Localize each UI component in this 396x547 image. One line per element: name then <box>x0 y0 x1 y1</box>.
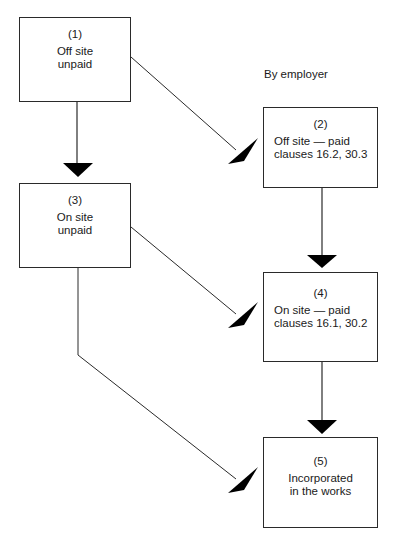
node-incorporated-in-works: (5) Incorporated in the works <box>263 437 378 528</box>
arrowhead-icon <box>307 420 337 434</box>
arrowhead-icon <box>307 255 337 268</box>
edge-3-to-5 <box>78 268 258 493</box>
arrowhead-icon <box>228 467 258 493</box>
arrowhead-icon <box>228 302 258 328</box>
node-off-site-paid: (2) Off site — paid clauses 16.2, 30.3 <box>263 107 378 188</box>
node-text-line: Incorporated <box>264 472 377 485</box>
edge-4-to-5 <box>307 362 337 434</box>
node-text-line: Off site <box>20 45 130 58</box>
node-on-site-unpaid: (3) On site unpaid <box>19 183 131 268</box>
node-number: (1) <box>20 28 130 41</box>
node-number: (4) <box>274 287 377 300</box>
node-off-site-unpaid: (1) Off site unpaid <box>19 17 131 102</box>
node-text-line: unpaid <box>20 224 130 237</box>
node-text-line: clauses 16.1, 30.2 <box>274 317 377 330</box>
edge-1-to-2 <box>131 57 258 164</box>
node-text-line: On site — paid <box>274 304 377 317</box>
flow-diagram: By employer (1) Off site unpaid (2) Off … <box>0 0 396 547</box>
edge-1-to-3 <box>63 102 93 177</box>
node-text-line: unpaid <box>20 58 130 71</box>
node-text-line: in the works <box>264 485 377 498</box>
node-text-line: Off site — paid <box>274 135 377 148</box>
node-number: (2) <box>274 118 377 131</box>
edge-3-to-4 <box>131 227 258 328</box>
node-number: (3) <box>20 194 130 207</box>
node-text-line: clauses 16.2, 30.3 <box>274 148 377 161</box>
arrowhead-icon <box>228 138 258 164</box>
arrowhead-icon <box>63 163 93 177</box>
edge-2-to-4 <box>307 188 337 268</box>
node-number: (5) <box>264 455 377 468</box>
node-on-site-paid: (4) On site — paid clauses 16.1, 30.2 <box>263 272 378 362</box>
by-employer-label: By employer <box>264 68 328 80</box>
node-text-line: On site <box>20 211 130 224</box>
